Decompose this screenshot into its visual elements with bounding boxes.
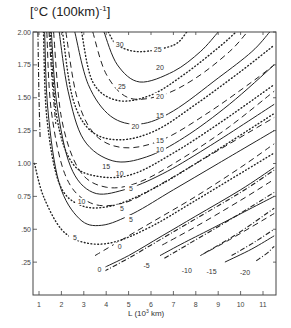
x-tick-label: 3	[82, 301, 86, 308]
contour-dashed	[162, 179, 274, 245]
contour-level-label: 25	[154, 46, 162, 53]
x-tick-label: 1	[37, 301, 41, 308]
contour-dashed	[54, 32, 275, 188]
contour-level-label: 15	[156, 137, 164, 144]
contour-level-label: 5	[73, 234, 77, 241]
x-axis-title: L (103 km)	[128, 308, 165, 318]
y-tick-label: 0.75	[17, 193, 31, 200]
contour-level-label: 10	[116, 170, 124, 177]
x-tick-label: 6	[149, 301, 153, 308]
contour-level-label: 25	[118, 83, 126, 90]
contour-level-label: 15	[156, 112, 164, 119]
contour-chart: 302520252015201510151051055500-5-10-15-2…	[0, 0, 291, 328]
y-tick-label: 1.75	[17, 61, 31, 68]
contour-level-label: 0	[98, 266, 102, 273]
contour-dotted	[50, 32, 274, 178]
contour-level-label: -20	[240, 269, 250, 276]
x-tick-label: 11	[259, 301, 266, 308]
contour-dash-dot	[38, 32, 40, 137]
x-tick-label: 7	[171, 301, 175, 308]
contour-solid	[59, 32, 274, 162]
contour-level-label: 5	[129, 216, 133, 223]
x-tick-label: 10	[237, 301, 245, 308]
contour-dotted	[44, 32, 275, 208]
contour-level-label: 20	[131, 123, 139, 130]
contour-level-label: -10	[182, 267, 192, 274]
contour-dashed	[95, 144, 274, 256]
x-tick-label: 5	[127, 301, 131, 308]
x-tick-label: 9	[216, 301, 220, 308]
contour-level-label: 5	[120, 205, 124, 212]
contour-level-label: -5	[143, 262, 149, 269]
contour-level-label: 10	[78, 198, 86, 205]
contour-dash-dot	[256, 246, 274, 260]
y-tick-label: 1.50	[17, 94, 31, 101]
x-tick-label: 4	[104, 301, 108, 308]
y-tick-label: 2.00	[17, 29, 31, 36]
contour-level-label: 10	[156, 146, 164, 153]
contour-level-label: 5	[129, 185, 133, 192]
contour-solid	[160, 196, 274, 255]
y-tick-label: .25	[21, 259, 31, 266]
contour-level-label: 0	[118, 243, 122, 250]
contour-level-label: 30	[116, 41, 124, 48]
contour-dashed	[66, 32, 274, 148]
contour-solid	[225, 236, 274, 262]
contour-level-label: 20	[156, 64, 164, 71]
y-tick-label: .50	[21, 226, 31, 233]
contour-level-label: 15	[102, 163, 110, 170]
y-tick-label: 1.25	[17, 127, 31, 134]
contour-labels: 302520252015201510151051055500-5-10-15-2…	[69, 40, 251, 276]
contour-dash-dot	[232, 229, 275, 255]
contour-level-label: -15	[206, 268, 216, 275]
x-tick-label: 2	[59, 301, 63, 308]
y-tick-label: 1.00	[17, 160, 31, 167]
x-tick-label: 8	[194, 301, 198, 308]
contour-level-label: 20	[156, 93, 164, 100]
